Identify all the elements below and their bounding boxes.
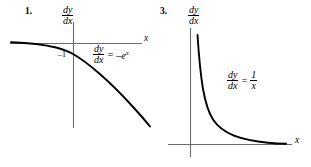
figure-1-plot: [0, 0, 155, 167]
equation-equals-sign: =: [104, 49, 116, 60]
figure-3-x-axis-label: x: [295, 135, 299, 145]
equation-lhs-numerator: dy: [93, 44, 104, 54]
figure-1-x-axis-label: x: [144, 33, 148, 43]
equation-equals-sign: =: [238, 75, 250, 86]
figure-3: 3. dy dx x dy dx = 1 x: [155, 0, 311, 167]
figure-3-equation: dy dx = 1 x: [227, 70, 257, 92]
equation-right-hand-side: –ex: [116, 49, 128, 61]
equation-rhs-fraction: 1 x: [250, 70, 257, 92]
equation-lhs-fraction: dy dx: [227, 70, 238, 92]
figure-1-tick-label-minus-one: –1: [58, 50, 66, 59]
equation-lhs-fraction: dy dx: [93, 44, 104, 66]
figure-1-curve: [11, 42, 150, 126]
equation-lhs-numerator: dy: [227, 70, 238, 80]
equation-lhs-denominator: dx: [227, 80, 238, 91]
equation-lhs-denominator: dx: [93, 54, 104, 65]
equation-rhs-base: –e: [116, 50, 125, 61]
equation-rhs-numerator: 1: [250, 70, 257, 80]
equation-rhs-exponent: x: [126, 49, 129, 56]
figure-1: 1. dy dx –1 x dy dx = –ex: [0, 0, 155, 167]
equation-rhs-denominator: x: [250, 80, 257, 91]
figure-1-equation: dy dx = –ex: [93, 44, 129, 66]
